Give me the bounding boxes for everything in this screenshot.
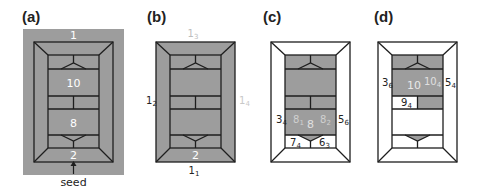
corner-line xyxy=(336,42,350,55)
region-label-8: 8 xyxy=(307,118,314,131)
region-label-8: 8 xyxy=(70,117,77,130)
panel-d-label: (d) xyxy=(374,8,393,25)
seed-label: seed xyxy=(60,176,86,189)
panel-a-label: (a) xyxy=(22,8,40,25)
corner-line xyxy=(443,42,457,55)
corner-line xyxy=(443,148,457,162)
region-label-2: 2 xyxy=(70,149,77,162)
edge-label-right: 54 xyxy=(445,77,456,90)
grey-fill-split-right xyxy=(418,96,444,109)
region-label-10: 10 xyxy=(67,77,81,90)
panel-b: (b) 2 13 12 14 11 xyxy=(146,8,250,178)
edge-label-left: 12 xyxy=(146,95,157,108)
panel-a: (a) 1 10 8 2 seed xyxy=(22,8,124,189)
corner-line xyxy=(271,42,285,55)
corner-line xyxy=(336,148,350,162)
edge-label-top: 13 xyxy=(188,28,199,41)
region-label-9-4: 94 xyxy=(401,97,412,110)
corner-line xyxy=(378,42,392,55)
panel-d: (d) 10 104 36 54 94 xyxy=(374,8,457,162)
figure-canvas: (a) 1 10 8 2 seed (b) xyxy=(0,0,482,191)
edge-label-bottom: 11 xyxy=(189,165,200,178)
panel-b-label: (b) xyxy=(147,8,166,25)
edge-label-right: 14 xyxy=(239,95,250,108)
corner-line xyxy=(378,148,392,162)
grey-notch-fill xyxy=(405,135,430,141)
edge-label-right: 56 xyxy=(338,114,349,127)
panel-c-label: (c) xyxy=(263,8,281,25)
corner-line xyxy=(271,148,285,162)
panel-c: (c) 81 8 82 34 56 74 63 xyxy=(263,8,350,162)
region-label-10: 10 xyxy=(407,79,421,92)
region-label-2: 2 xyxy=(192,149,199,162)
region-label-1: 1 xyxy=(70,29,77,42)
